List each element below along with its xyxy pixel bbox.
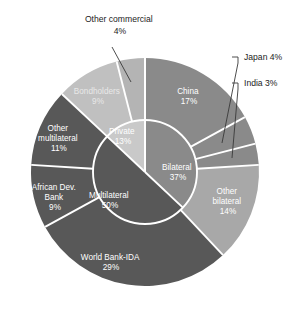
leader-bracket-japan bbox=[232, 57, 238, 63]
callout-label-japan: Japan 4% bbox=[244, 52, 283, 62]
callout-label-india: India 3% bbox=[244, 78, 278, 88]
pie-chart-svg: Bilateral 37% Multilateral 50% Private 1… bbox=[0, 0, 294, 325]
pie-chart-figure: Bilateral 37% Multilateral 50% Private 1… bbox=[0, 0, 294, 325]
callout-label-other-commercial: Other commercial 4% bbox=[85, 14, 155, 36]
